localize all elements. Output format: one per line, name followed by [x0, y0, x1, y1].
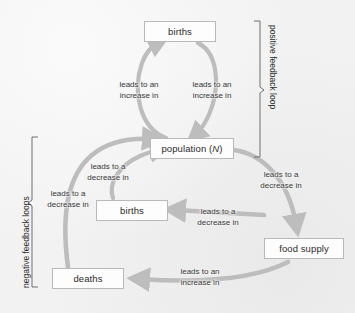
node-deaths-label: deaths [73, 273, 102, 284]
node-births-top-label: births [168, 26, 192, 37]
edge-label-births-top-to-population: leads to an increase in [183, 80, 241, 101]
edge-label-deaths-to-population: leads to a decrease in [37, 189, 99, 210]
edge-label-births-lower-to-population: leads to a decrease in [77, 162, 139, 183]
node-deaths[interactable]: deaths [52, 268, 124, 289]
node-population[interactable]: population (N) [150, 138, 234, 159]
bracket-positive-feedback [254, 21, 264, 157]
edge-label-population-to-food-supply: leads to a decrease in [250, 170, 312, 191]
edge-label-population-to-births-top: leads to an increase in [110, 80, 168, 101]
node-food-supply-label: food supply [279, 243, 329, 254]
bracket-label-positive-feedback: positive feedback loop [268, 25, 278, 109]
node-population-label: population (N) [161, 143, 222, 154]
node-births-lower-label: births [120, 205, 144, 216]
node-births-top[interactable]: births [144, 21, 216, 42]
edge-label-food-supply-to-deaths: leads to an increase in [169, 267, 231, 288]
edge-label-food-supply-to-births-lower: leads to a decrease in [187, 207, 249, 228]
node-births-lower[interactable]: births [96, 200, 168, 221]
diagram-canvas: births population (N) births food supply… [0, 0, 355, 313]
bracket-label-negative-feedback: negative feedback loops [21, 196, 31, 288]
node-food-supply[interactable]: food supply [264, 238, 344, 259]
